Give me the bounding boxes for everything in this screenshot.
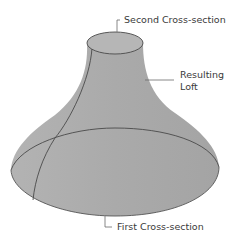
leader-first-cross-section — [105, 216, 112, 227]
label-first-cross-section: First Cross-section — [117, 221, 204, 233]
label-second-cross-section: Second Cross-section — [124, 14, 226, 26]
label-resulting-loft-line1: Resulting — [180, 69, 224, 81]
label-resulting-loft-line2: Loft — [180, 81, 198, 93]
loft-diagram — [0, 0, 236, 242]
second-cross-section-cap — [87, 32, 143, 54]
leader-second-cross-section — [117, 20, 120, 32]
